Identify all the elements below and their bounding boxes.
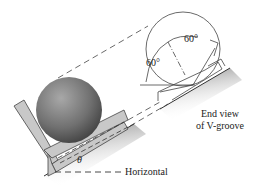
end-view-caption-line1: End view bbox=[190, 108, 250, 120]
theta-label: θ bbox=[77, 154, 82, 165]
sphere bbox=[36, 77, 102, 143]
angle-label-left: 60° bbox=[146, 57, 160, 68]
end-view-caption-line2: of V-groove bbox=[190, 120, 250, 132]
end-view-caption: End view of V-groove bbox=[190, 108, 250, 132]
horizontal-label: Horizontal bbox=[125, 166, 168, 177]
angle-label-upper: 60° bbox=[184, 33, 198, 44]
diagram-canvas bbox=[0, 0, 255, 193]
